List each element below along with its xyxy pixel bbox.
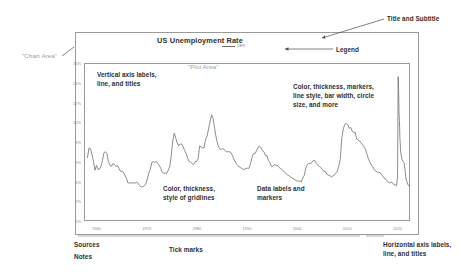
annotation-legend: Legend [336,45,359,54]
chart-legend[interactable]: UER [222,44,245,48]
y-tick-label: 2% [75,199,81,204]
x-tick-label: 1980 [192,226,201,231]
legend-line-swatch [222,46,235,47]
x-tick-label: 1990 [243,226,252,231]
x-tick-label: 2020 [393,226,402,231]
y-tick-label: 6% [75,159,81,164]
y-tick-label: 8% [75,140,81,145]
y-tick-label: 14% [73,80,81,85]
y-tick-label: 4% [75,179,81,184]
annotation-gridlines: Color, thickness,style of gridlines [163,184,215,202]
annotation-plot-area: "Plot Area" [188,63,219,70]
horizontal-axis-labels[interactable]: 1960197019801990200020102020 [84,226,410,234]
annotation-chart-area: "Chart Area" [22,52,57,59]
vertical-axis-labels[interactable]: 0%2%4%6%8%10%12%14%16% [60,63,81,221]
screenshot-root: US Unemployment Rate UER 0%2%4%6%8%10%12… [0,0,470,278]
x-tick-label: 1960 [92,226,101,231]
y-tick-label: 0% [75,219,81,224]
y-tick-label: 12% [73,100,81,105]
annotation-color-thickness-markers: Color, thickness, markers,line style, ba… [293,82,374,109]
legend-label: UER [237,44,245,48]
y-tick-label: 10% [73,120,81,125]
chart-title[interactable]: US Unemployment Rate [75,36,325,45]
annotation-sources: Sources [74,240,100,249]
annotation-notes: Notes [74,252,92,261]
annotation-horizontal-axis: Horizontal axis labels,line, and titles [383,240,451,258]
x-tick-label: 2010 [343,226,352,231]
annotation-data-labels: Data labels andmarkers [257,184,305,202]
annotation-tick-marks: Tick marks [169,245,203,254]
y-tick-label: 16% [73,61,81,66]
x-tick-label: 1970 [142,226,151,231]
x-tick-label: 2000 [293,226,302,231]
annotation-vertical-axis: Vertical axis labels,line, and titles [97,70,157,88]
annotation-title-subtitle: Title and Subtitle [387,14,439,23]
